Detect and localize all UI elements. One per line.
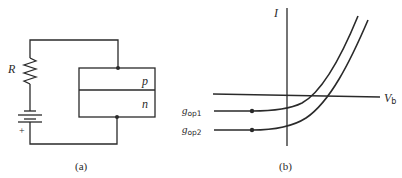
curve-gop2 [214,20,368,130]
figure: R + p n (a) I Vb gop1 gop2 (b) [0,0,402,178]
resistor-icon [24,58,36,84]
y-axis-label: I [273,6,279,20]
curve-gop1-label: gop1 [182,104,202,118]
bottom-wire [30,117,117,144]
caption-b: (b) [279,160,292,173]
x-axis [213,94,380,97]
panel-a-circuit: R + p n (a) [7,40,155,173]
n-region-label: n [142,97,148,111]
top-wire [30,40,118,68]
bottom-contact-dot [115,115,119,119]
panel-b-graph: I Vb gop1 gop2 (b) [182,6,396,173]
top-contact-dot [116,66,120,70]
curve-gop2-dot [250,128,254,132]
p-region-label: p [141,74,148,88]
battery-icon [18,111,42,122]
x-axis-label: Vb [384,91,396,106]
battery-plus-label: + [19,125,25,136]
caption-a: (a) [75,160,88,173]
curve-gop2-label: gop2 [182,123,202,137]
resistor-label: R [7,62,16,76]
curve-gop1-dot [250,109,254,113]
